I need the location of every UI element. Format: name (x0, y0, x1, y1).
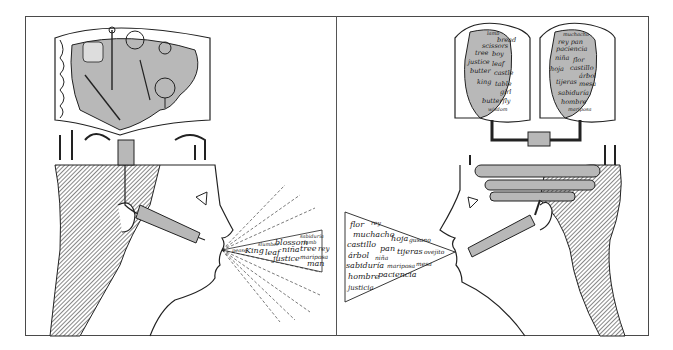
svg-text:mariposa: mariposa (568, 106, 591, 113)
svg-text:king: king (477, 78, 491, 86)
svg-text:justice: justice (271, 254, 300, 263)
svg-text:tijeras: tijeras (397, 247, 423, 256)
svg-text:hombre: hombre (348, 272, 380, 281)
svg-text:castillo: castillo (347, 240, 376, 249)
word-king: King (244, 246, 264, 255)
svg-text:mesa: mesa (416, 260, 432, 267)
svg-text:niña: niña (555, 54, 569, 62)
svg-text:hoja: hoja (550, 65, 564, 73)
svg-text:castillo: castillo (570, 64, 594, 72)
svg-text:tijeras: tijeras (556, 78, 578, 86)
svg-text:sabiduría: sabiduría (558, 89, 589, 97)
svg-text:muchacho: muchacho (563, 31, 589, 37)
svg-text:girl: girl (500, 88, 511, 96)
illustration: pease King leaf slumber blossom sabidurí… (0, 0, 673, 350)
svg-text:tree: tree (475, 49, 489, 57)
svg-text:flor: flor (572, 56, 585, 64)
svg-text:sabiduría: sabiduría (346, 261, 384, 270)
svg-text:mariposa: mariposa (387, 262, 416, 270)
svg-text:butter: butter (470, 67, 491, 75)
svg-text:man: man (307, 259, 325, 268)
svg-text:ovejito: ovejito (424, 248, 445, 256)
right-panel: lamb bread scissors tree boy justice lea… (345, 23, 625, 336)
svg-text:wisdom: wisdom (488, 106, 508, 112)
svg-text:justice: justice (466, 58, 490, 66)
svg-text:rey: rey (318, 245, 330, 253)
bread-picture (83, 42, 103, 62)
svg-text:justicia: justicia (346, 284, 374, 292)
svg-text:niña: niña (375, 254, 389, 261)
svg-text:rey: rey (371, 219, 381, 227)
svg-text:butterfly: butterfly (482, 97, 511, 105)
svg-text:leaf: leaf (492, 60, 506, 68)
svg-text:muchacho: muchacho (353, 230, 395, 239)
svg-text:paciencia: paciencia (556, 45, 588, 53)
svg-text:pan: pan (380, 244, 395, 253)
svg-text:table: table (495, 80, 512, 88)
svg-text:castle: castle (494, 69, 514, 77)
svg-text:hoja: hoja (391, 234, 408, 243)
svg-text:tree: tree (300, 244, 317, 253)
svg-text:niña: niña (282, 245, 300, 254)
left-panel: pease King leaf slumber blossom sabidurí… (50, 27, 330, 336)
svg-text:árbol: árbol (579, 72, 596, 80)
svg-text:gusano: gusano (409, 236, 431, 244)
svg-text:mesa: mesa (579, 80, 596, 88)
svg-text:paciencia: paciencia (378, 270, 417, 279)
svg-text:flor: flor (349, 220, 365, 229)
svg-text:boy: boy (492, 50, 504, 58)
svg-text:árbol: árbol (348, 251, 370, 260)
svg-text:hombre: hombre (561, 98, 587, 106)
